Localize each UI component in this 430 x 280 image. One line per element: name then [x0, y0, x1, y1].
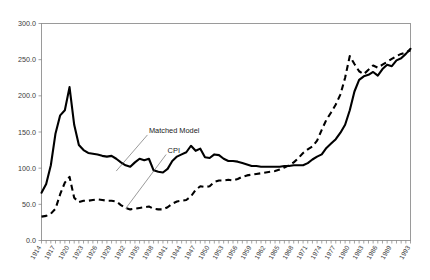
- y-axis-tick-label: 150.0: [18, 128, 36, 137]
- y-axis-tick-label: 250.0: [18, 55, 36, 64]
- series-line-cpi: [42, 50, 411, 216]
- y-axis-tick-labels: 0.050.0100.0150.0200.0250.0300.0: [18, 19, 36, 245]
- x-axis-tick-labels: 1914191719201923192619291932193519381941…: [29, 244, 412, 260]
- series-line-matched-model: [42, 49, 411, 193]
- x-axis-tick-label: 1974: [309, 244, 323, 260]
- plot-frame-group: [42, 24, 411, 241]
- plot-area-border: [42, 24, 411, 241]
- chart-container: 0.050.0100.0150.0200.0250.0300.0 1914191…: [0, 0, 430, 280]
- x-axis-tick-label: 1914: [29, 244, 43, 260]
- x-axis-tick-label: 1971: [295, 244, 309, 260]
- x-axis-tick-label: 1938: [141, 244, 155, 260]
- x-axis-tick-label: 1986: [365, 244, 379, 260]
- x-axis-tick-label: 1980: [337, 244, 351, 260]
- x-axis-tick-label: 1950: [197, 244, 211, 260]
- y-axis-tick-label: 200.0: [18, 91, 36, 100]
- y-axis-tick-label: 0.0: [26, 236, 36, 245]
- annotation-label-cpi: CPI: [168, 146, 180, 155]
- annotations-group: Matched ModelCPI: [116, 126, 200, 208]
- x-axis-tick-label: 1993: [398, 244, 412, 260]
- y-axis-tick-label: 50.0: [22, 200, 36, 209]
- x-axis-tick-label: 1941: [155, 244, 169, 260]
- price-index-line-chart: 0.050.0100.0150.0200.0250.0300.0 1914191…: [0, 0, 430, 280]
- axis-ticks-group: [39, 24, 411, 244]
- x-axis-tick-label: 1935: [127, 244, 141, 260]
- y-axis-tick-label: 300.0: [18, 19, 36, 28]
- x-axis-tick-label: 1968: [281, 244, 295, 260]
- x-axis-tick-label: 1989: [379, 244, 393, 260]
- x-axis-tick-label: 1959: [239, 244, 253, 260]
- x-axis-tick-label: 1965: [267, 244, 281, 260]
- x-axis-tick-label: 1929: [99, 244, 113, 260]
- x-axis-tick-label: 1920: [57, 244, 71, 260]
- x-axis-tick-label: 1947: [183, 244, 197, 260]
- annotation-label-matched-model: Matched Model: [149, 126, 200, 135]
- x-axis-tick-label: 1932: [113, 244, 127, 260]
- x-axis-tick-label: 1917: [43, 244, 57, 260]
- x-axis-tick-label: 1962: [253, 244, 267, 260]
- x-axis-tick-label: 1953: [211, 244, 225, 260]
- x-axis-tick-label: 1923: [71, 244, 85, 260]
- x-axis-tick-label: 1977: [323, 244, 337, 260]
- data-series-group: [42, 49, 411, 217]
- x-axis-tick-label: 1926: [85, 244, 99, 260]
- x-axis-tick-label: 1983: [351, 244, 365, 260]
- x-axis-tick-label: 1956: [225, 244, 239, 260]
- y-axis-tick-label: 100.0: [18, 164, 36, 173]
- annotation-leader-line: [126, 154, 167, 208]
- x-axis-tick-label: 1944: [169, 244, 183, 260]
